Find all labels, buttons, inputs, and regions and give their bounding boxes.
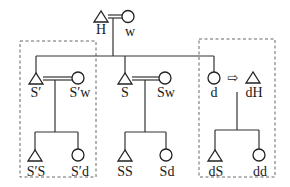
label-S-prime-d: S′d <box>71 164 89 179</box>
male-triangle-icon <box>246 72 260 83</box>
label-dH: dH <box>245 85 262 100</box>
label-SS: SS <box>117 164 133 179</box>
male-triangle-icon <box>208 150 222 161</box>
label-S-prime-S: S′S <box>27 164 46 179</box>
male-triangle-icon <box>118 73 132 84</box>
female-circle-icon <box>159 72 171 84</box>
arrow-right-icon: ⇨ <box>228 70 239 85</box>
label-S: S <box>121 85 129 100</box>
kinship-diagram: H w S′ S′w S Sw ⇨ d dH S′S S′d SS Sd dS … <box>0 0 290 187</box>
label-H: H <box>96 22 106 37</box>
label-d: d <box>211 85 218 100</box>
label-Sd: Sd <box>160 164 175 179</box>
label-S-prime: S′ <box>31 85 42 100</box>
male-triangle-icon <box>29 73 43 84</box>
female-circle-icon <box>72 149 84 161</box>
male-triangle-icon <box>28 150 42 161</box>
label-dS: dS <box>209 164 224 179</box>
label-Sw: Sw <box>157 85 176 100</box>
label-w: w <box>125 24 136 39</box>
female-circle-icon <box>122 11 134 23</box>
male-triangle-icon <box>118 150 132 161</box>
female-circle-icon <box>160 149 172 161</box>
female-circle-icon <box>208 72 220 84</box>
female-circle-icon <box>72 72 84 84</box>
label-dd: dd <box>253 164 267 179</box>
male-triangle-icon <box>94 11 108 22</box>
female-circle-icon <box>253 149 265 161</box>
label-S-prime-w: S′w <box>70 85 92 100</box>
